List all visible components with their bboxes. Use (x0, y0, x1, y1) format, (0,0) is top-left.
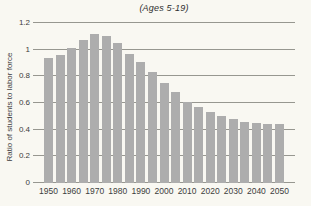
bar-chart-figure: (Ages 5-19) Ratio of students to labor f… (0, 0, 311, 206)
plot-area (33, 23, 295, 183)
bar-1965 (79, 40, 88, 183)
bar-2040 (252, 123, 261, 183)
bar-2050 (275, 124, 284, 183)
bar-1960 (67, 48, 76, 183)
bar-1975 (102, 36, 111, 183)
bar-1995 (148, 72, 157, 183)
y-tick-0: 0 (0, 178, 30, 188)
bar-1950 (44, 58, 53, 183)
bar-1970 (90, 34, 99, 183)
y-tick-0.8: 0.8 (0, 71, 30, 81)
bar-2005 (171, 92, 180, 183)
bar-2020 (206, 112, 215, 183)
bar-2015 (194, 107, 203, 183)
y-tick-0.6: 0.6 (0, 98, 30, 108)
bar-1955 (56, 55, 65, 183)
bar-1985 (125, 54, 134, 183)
bar-2035 (240, 122, 249, 183)
bar-2030 (229, 119, 238, 183)
x-tick-2050: 2050 (264, 186, 296, 196)
y-tick-1.2: 1.2 (0, 18, 30, 28)
chart-title: (Ages 5-19) (33, 3, 295, 13)
bar-2000 (160, 83, 169, 183)
bar-2010 (183, 102, 192, 183)
bar-2025 (217, 116, 226, 183)
gridline-1.2 (33, 22, 295, 23)
y-tick-0.2: 0.2 (0, 151, 30, 161)
bar-1990 (136, 62, 145, 183)
y-tick-1: 1 (0, 45, 30, 55)
y-tick-0.4: 0.4 (0, 125, 30, 135)
bar-2045 (263, 124, 272, 183)
bar-1980 (113, 43, 122, 183)
